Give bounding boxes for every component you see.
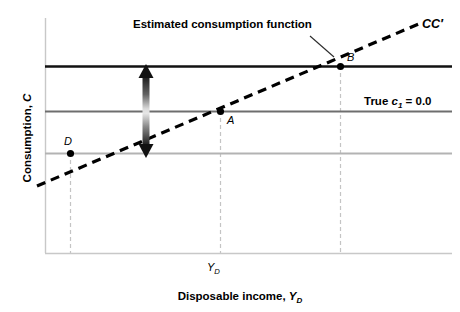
point-label-b: B xyxy=(347,51,354,63)
consumption-function-diagram xyxy=(0,0,460,312)
x-tick-symbol-subscript: D xyxy=(214,267,220,276)
point-marker-b xyxy=(337,63,344,70)
point-marker-d xyxy=(67,150,74,157)
x-axis-symbol-subscript: D xyxy=(297,296,303,305)
true-c1-prefix: True xyxy=(364,95,391,107)
y-axis-symbol: C xyxy=(21,94,33,102)
point-marker-a xyxy=(217,108,224,115)
x-axis-title: Disposable income, YD xyxy=(150,290,330,305)
label-true-c1: True c1 = 0.0 xyxy=(364,95,431,110)
figure-canvas: Consumption, C Disposable income, YD YD … xyxy=(0,0,460,312)
annotation-leader-line xyxy=(310,36,334,57)
x-tick-label-yd: YD xyxy=(207,261,220,276)
annotation-estimated-consumption-function: Estimated consumption function xyxy=(133,18,312,30)
x-axis-title-text: Disposable income, xyxy=(178,290,289,302)
point-label-a: A xyxy=(227,114,234,126)
point-label-d: D xyxy=(64,135,72,147)
true-c1-value: = 0.0 xyxy=(402,95,431,107)
y-axis-title-text: Consumption, xyxy=(21,102,33,183)
x-axis-symbol: Y xyxy=(289,290,297,302)
curve-label-cc-prime: CC′ xyxy=(422,17,443,31)
y-axis-title: Consumption, C xyxy=(21,68,33,208)
